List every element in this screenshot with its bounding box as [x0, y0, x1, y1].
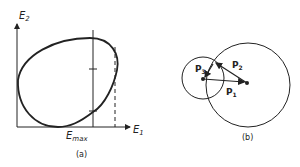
panel-b: P3 P2 P1 (b)	[182, 43, 290, 142]
label-p1: P1	[226, 87, 237, 98]
emax-label: Emax	[66, 130, 88, 143]
x-axis-label: E1	[133, 124, 144, 137]
label-p2: P2	[232, 60, 243, 71]
point-origin	[245, 81, 249, 85]
caption-b: (b)	[242, 133, 253, 142]
label-p3: P3	[195, 64, 206, 75]
point-p3	[201, 77, 205, 81]
caption-a: (a)	[76, 150, 87, 159]
polarization-loop	[18, 38, 118, 127]
figure-canvas: E2 E1 Emax (a) P3 P2 P1 (b)	[0, 0, 300, 167]
y-axis-label: E2	[19, 10, 30, 23]
panel-a: E2 E1 Emax (a)	[17, 10, 144, 159]
large-circle	[206, 43, 290, 127]
vector-p3	[205, 64, 213, 77]
